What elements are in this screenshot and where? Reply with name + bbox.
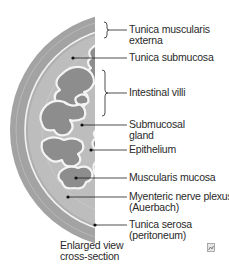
caption-line: cross-section bbox=[60, 251, 123, 262]
label-line: Intestinal villi bbox=[129, 87, 185, 98]
label-tunica-serosa: Tunica serosa (peritoneum) bbox=[129, 219, 192, 241]
label-intestinal-villi: Intestinal villi bbox=[129, 87, 185, 98]
label-line: externa bbox=[129, 35, 210, 46]
label-myenteric-nerve-plexus: Myenteric nerve plexus (Auerbach) bbox=[129, 191, 229, 213]
label-line: gland bbox=[129, 130, 185, 141]
label-epithelium: Epithelium bbox=[129, 144, 176, 155]
label-line: Muscularis mucosa bbox=[129, 172, 215, 183]
label-tunica-muscularis-externa: Tunica muscularis externa bbox=[129, 24, 210, 46]
label-submucosal-gland: Submucosal gland bbox=[129, 119, 185, 141]
label-line: (peritoneum) bbox=[129, 230, 192, 241]
label-line: Epithelium bbox=[129, 144, 176, 155]
label-line: Tunica submucosa bbox=[129, 52, 214, 63]
label-muscularis-mucosa: Muscularis mucosa bbox=[129, 172, 215, 183]
figure-caption: Enlarged view cross-section bbox=[60, 240, 123, 262]
label-line: (Auerbach) bbox=[129, 202, 229, 213]
label-tunica-submucosa: Tunica submucosa bbox=[129, 52, 214, 63]
image-icon[interactable] bbox=[207, 243, 215, 252]
